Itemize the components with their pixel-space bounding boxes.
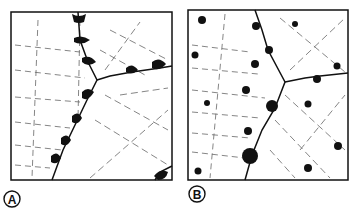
precipitate [266, 100, 278, 112]
precipitate [72, 14, 86, 23]
panel-b [188, 10, 348, 180]
precipitate [313, 75, 321, 83]
precipitate [74, 36, 90, 43]
precipitate [82, 89, 94, 99]
panel-a-lattice-right [90, 22, 168, 178]
precipitate [292, 21, 298, 27]
panel-a-lattice-left [15, 20, 85, 178]
precipitate [304, 164, 312, 172]
precipitate [242, 148, 258, 164]
precipitate [242, 86, 250, 94]
precipitate [244, 127, 252, 135]
precipitate [252, 22, 260, 30]
precipitate [198, 16, 206, 24]
precipitate [192, 52, 199, 59]
panel-a-precipitates [51, 14, 168, 180]
precipitate [51, 153, 61, 163]
panel-a-label: A [4, 191, 20, 207]
precipitate [334, 63, 341, 70]
precipitate [251, 60, 259, 68]
precipitate [334, 142, 342, 150]
panel-b-precipitates [192, 16, 343, 175]
precipitate [204, 100, 210, 106]
panel-b-lattice-right [270, 18, 345, 178]
panel-a [11, 12, 172, 180]
precipitate [265, 46, 273, 54]
panel-b-label: B [189, 186, 205, 202]
precipitate [82, 57, 96, 65]
panel-a-frame [11, 12, 172, 180]
panel-a-label-text: A [8, 193, 17, 207]
precipitate [305, 101, 312, 108]
precipitate [126, 65, 138, 73]
diagram-canvas: A B [0, 0, 355, 218]
panel-b-label-text: B [193, 188, 202, 202]
precipitate [195, 168, 202, 175]
